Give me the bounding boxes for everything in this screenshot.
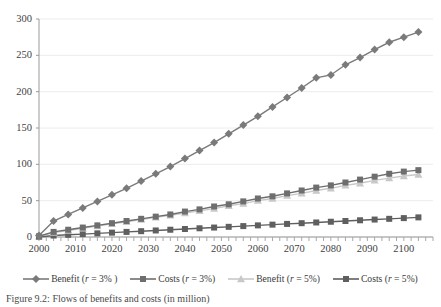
- data-point-marker: [372, 174, 378, 180]
- data-point-marker: [210, 139, 218, 147]
- legend-marker-triangle-icon: [228, 273, 254, 285]
- x-axis-tick-label: 2030: [128, 244, 168, 255]
- y-axis-tick-label: 0: [0, 232, 32, 243]
- data-point-marker: [108, 191, 116, 199]
- data-point-marker: [138, 216, 144, 222]
- legend-marker-square-icon: [130, 273, 156, 285]
- data-point-marker: [64, 210, 72, 218]
- legend-item-4[interactable]: Costs (r = 5%): [333, 273, 418, 285]
- data-point-marker: [79, 204, 87, 212]
- data-point-marker: [80, 231, 86, 237]
- data-point-marker: [166, 163, 174, 171]
- data-point-marker: [401, 215, 407, 221]
- data-point-marker: [226, 201, 232, 207]
- data-point-marker: [226, 224, 232, 230]
- data-point-marker: [414, 28, 422, 36]
- data-point-marker: [109, 220, 115, 226]
- x-axis-tick-label: 2070: [274, 244, 314, 255]
- data-point-marker: [415, 167, 421, 173]
- data-point-marker: [299, 220, 305, 226]
- data-point-marker: [109, 230, 115, 236]
- data-point-marker: [124, 229, 130, 235]
- data-point-marker: [240, 198, 246, 204]
- data-point-marker: [283, 93, 291, 101]
- data-point-marker: [357, 217, 363, 223]
- y-axis-tick-label: 200: [0, 87, 32, 98]
- data-point-marker: [182, 209, 188, 215]
- legend-label: Benefit (r = 3% ): [51, 274, 117, 284]
- data-point-marker: [181, 155, 189, 163]
- data-point-marker: [197, 206, 203, 212]
- data-point-marker: [385, 38, 393, 46]
- data-point-marker: [138, 228, 144, 234]
- x-axis-tick-label: 2020: [92, 244, 132, 255]
- legend-label: Costs (r = 5%): [361, 274, 418, 284]
- data-point-marker: [93, 197, 101, 205]
- data-point-marker: [255, 222, 261, 228]
- data-point-marker: [269, 193, 275, 199]
- x-axis-tick-label: 2100: [384, 244, 424, 255]
- data-point-marker: [415, 214, 421, 220]
- data-point-marker: [51, 229, 57, 235]
- legend-label: Costs (r = 3%): [158, 274, 215, 284]
- data-point-marker: [284, 190, 290, 196]
- legend-item-2[interactable]: Costs (r = 3%): [130, 273, 215, 285]
- figure-container: 050100150200250300 200020102020203020402…: [0, 0, 441, 307]
- data-point-marker: [342, 180, 348, 186]
- legend-marker-square-icon: [333, 273, 359, 285]
- data-point-marker: [400, 33, 408, 41]
- legend-marker-diamond-icon: [23, 273, 49, 285]
- data-point-marker: [372, 217, 378, 223]
- y-axis-tick-label: 250: [0, 50, 32, 61]
- data-point-marker: [284, 221, 290, 227]
- data-point-marker: [313, 219, 319, 225]
- chart-svg: [0, 0, 441, 262]
- y-axis-tick-label: 300: [0, 14, 32, 25]
- data-point-marker: [211, 203, 217, 209]
- x-axis-tick-label: 2090: [347, 244, 387, 255]
- data-point-marker: [153, 214, 159, 220]
- x-axis-tick-label: 2000: [19, 244, 59, 255]
- y-axis-tick-label: 150: [0, 123, 32, 134]
- legend-label: Benefit (r = 5%): [256, 274, 320, 284]
- data-point-marker: [342, 218, 348, 224]
- x-axis-tick-label: 2050: [201, 244, 241, 255]
- data-point-marker: [313, 185, 319, 191]
- data-point-marker: [167, 211, 173, 217]
- data-point-marker: [32, 275, 40, 283]
- data-point-marker: [371, 46, 379, 54]
- data-point-marker: [196, 147, 204, 155]
- data-point-marker: [197, 225, 203, 231]
- data-point-marker: [65, 227, 71, 233]
- data-point-marker: [153, 227, 159, 233]
- legend-item-1[interactable]: Benefit (r = 3% ): [23, 273, 117, 285]
- data-point-marker: [240, 223, 246, 229]
- figure-caption: Figure 9.2: Flows of benefits and costs …: [6, 293, 436, 305]
- data-point-marker: [357, 177, 363, 183]
- data-point-marker: [255, 195, 261, 201]
- data-point-marker: [94, 230, 100, 236]
- data-point-marker: [80, 225, 86, 231]
- data-point-marker: [401, 169, 407, 175]
- data-point-marker: [356, 54, 364, 62]
- x-axis-tick-label: 2040: [165, 244, 205, 255]
- chart-plot-area: 050100150200250300 200020102020203020402…: [0, 0, 441, 262]
- data-point-marker: [269, 222, 275, 228]
- data-point-marker: [123, 184, 131, 192]
- data-point-marker: [343, 276, 349, 282]
- x-axis-tick-label: 2060: [238, 244, 278, 255]
- data-point-marker: [328, 219, 334, 225]
- data-point-marker: [124, 218, 130, 224]
- data-point-marker: [152, 170, 160, 178]
- data-point-marker: [299, 187, 305, 193]
- y-axis-tick-label: 100: [0, 159, 32, 170]
- x-axis-tick-label: 2010: [55, 244, 95, 255]
- data-point-marker: [211, 225, 217, 231]
- y-axis-tick-label: 50: [0, 196, 32, 207]
- data-point-marker: [386, 171, 392, 177]
- data-point-marker: [182, 226, 188, 232]
- data-point-marker: [268, 103, 276, 111]
- data-point-marker: [167, 227, 173, 233]
- legend-item-3[interactable]: Benefit (r = 5%): [228, 273, 320, 285]
- data-point-marker: [386, 216, 392, 222]
